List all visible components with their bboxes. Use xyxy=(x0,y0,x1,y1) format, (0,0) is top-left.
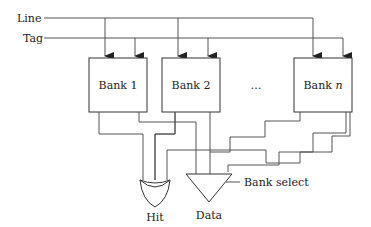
or-gate xyxy=(140,180,170,207)
line-label: Line xyxy=(17,12,41,25)
tag-bus xyxy=(44,38,343,56)
bank-select-label: Bank select xyxy=(244,176,309,189)
hit-wires xyxy=(99,112,350,180)
bank-2: Bank 2 xyxy=(162,58,220,112)
multiplexer xyxy=(186,174,240,202)
bank-n: Bank n xyxy=(294,58,352,112)
hit-output-label: Hit xyxy=(146,211,164,224)
bank-2-label: Bank 2 xyxy=(172,79,211,92)
data-output-label: Data xyxy=(196,209,223,222)
line-bus xyxy=(44,18,313,56)
bank-n-label: Bank n xyxy=(304,79,343,92)
ellipsis: … xyxy=(251,79,262,92)
banked-cache-diagram: Line Tag Bank 1 Bank 2 … Bank n xyxy=(0,0,371,227)
bank-1: Bank 1 xyxy=(89,58,147,112)
bank-1-label: Bank 1 xyxy=(99,79,138,92)
tag-label: Tag xyxy=(23,32,43,45)
